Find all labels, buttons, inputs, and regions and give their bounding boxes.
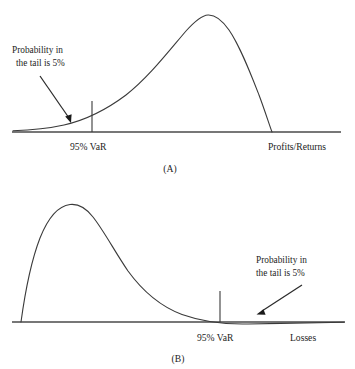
panel-a-annotation-line1: Probability in (12, 45, 63, 55)
panel-b: Probability in the tail is 5% 95% VaR Lo… (12, 204, 345, 365)
panel-a-annotation-arrowhead (65, 114, 71, 123)
panel-a-annotation-leader (40, 76, 69, 118)
panel-a-caption: (A) (163, 163, 176, 175)
var-distribution-figure: Probability in the tail is 5% 95% VaR Pr… (0, 0, 355, 369)
panel-a-axis-label: Profits/Returns (268, 141, 326, 152)
panel-b-annotation-leader (262, 285, 302, 311)
panel-b-var-label: 95% VaR (197, 332, 234, 343)
panel-b-annotation-line1: Probability in (256, 255, 307, 265)
panel-a-var-label: 95% VaR (70, 141, 107, 152)
panel-a-annotation-line2: the tail is 5% (16, 58, 65, 68)
panel-b-annotation-line2: the tail is 5% (256, 268, 305, 278)
figure-canvas: Probability in the tail is 5% 95% VaR Pr… (0, 0, 355, 369)
panel-b-axis-label: Losses (290, 332, 316, 343)
panel-a: Probability in the tail is 5% 95% VaR Pr… (12, 15, 341, 175)
panel-b-caption: (B) (172, 353, 185, 365)
panel-a-density-curve (13, 15, 272, 132)
